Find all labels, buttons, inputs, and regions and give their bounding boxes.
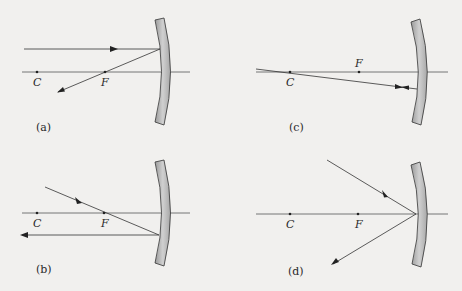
- incident-ray: [327, 160, 416, 214]
- label-c: C: [33, 217, 42, 230]
- panel-d: C F (d): [256, 160, 448, 278]
- focal-point: [357, 213, 360, 216]
- concave-mirror-ray-diagrams: C F (a) C F (c) C F (b): [0, 0, 462, 291]
- panel-a: C F (a): [22, 18, 190, 134]
- panel-label: (d): [288, 265, 304, 278]
- center-point: [36, 212, 39, 215]
- panel-label: (b): [36, 263, 52, 276]
- panel-c: C F (c): [256, 19, 448, 134]
- label-c: C: [286, 76, 295, 89]
- label-f: F: [100, 76, 109, 89]
- label-c: C: [33, 76, 42, 89]
- center-point: [289, 71, 292, 74]
- label-c: C: [286, 218, 295, 231]
- center-point: [36, 71, 39, 74]
- reflected-ray: [333, 214, 416, 264]
- focal-point: [358, 71, 361, 74]
- label-f: F: [354, 57, 363, 70]
- label-f: F: [354, 218, 363, 231]
- label-f: F: [100, 217, 109, 230]
- concave-mirror: [155, 18, 171, 125]
- focal-point: [104, 71, 107, 74]
- concave-mirror: [411, 162, 427, 267]
- center-point: [289, 213, 292, 216]
- panel-label: (c): [289, 121, 304, 134]
- focal-point: [103, 212, 106, 215]
- panel-label: (a): [36, 121, 51, 134]
- panel-b: C F (b): [20, 160, 190, 276]
- reflected-ray: [58, 49, 160, 92]
